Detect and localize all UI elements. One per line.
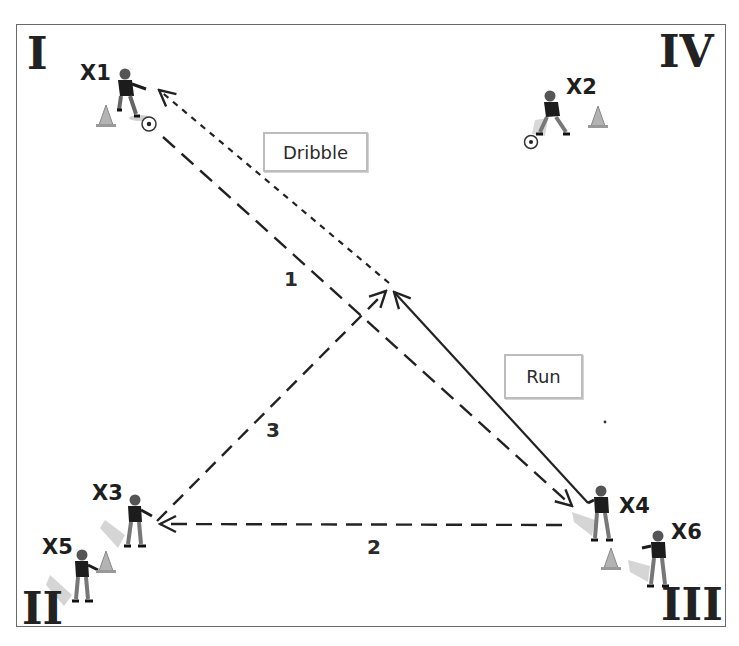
pass-2-arrow <box>160 524 562 525</box>
player-x1-figure <box>117 69 151 122</box>
player-x2-figure <box>532 91 570 137</box>
cone-icon <box>588 106 608 128</box>
pass-number-2: 2 <box>367 537 381 557</box>
cone-icon <box>96 551 116 573</box>
dribble-label: Dribble <box>283 142 348 163</box>
corner-label-iii: III <box>661 583 723 627</box>
pass-number-3: 3 <box>266 420 280 440</box>
corner-label-ii: II <box>22 587 63 631</box>
cone-icon <box>96 105 116 127</box>
player-label-x1: X1 <box>80 63 111 84</box>
player-x6-figure <box>628 531 669 587</box>
dribble-arrow <box>159 90 389 283</box>
cone-icon <box>601 548 621 570</box>
dribble-label-box: Dribble <box>263 132 368 172</box>
pass-3-arrow <box>157 291 386 521</box>
ball-icon <box>525 136 538 149</box>
corner-label-i: I <box>27 32 48 76</box>
pass-number-1: 1 <box>284 269 298 289</box>
player-label-x5: X5 <box>42 537 73 558</box>
player-label-x3: X3 <box>92 483 123 504</box>
run-label-box: Run <box>504 354 583 399</box>
corner-label-iv: IV <box>659 30 714 74</box>
player-label-x2: X2 <box>566 77 597 98</box>
pass-1-arrow <box>163 137 572 506</box>
speck <box>604 421 607 424</box>
player-label-x4: X4 <box>619 496 650 517</box>
player-label-x6: X6 <box>671 522 702 543</box>
run-label: Run <box>526 366 561 387</box>
ball-icon <box>142 117 156 131</box>
